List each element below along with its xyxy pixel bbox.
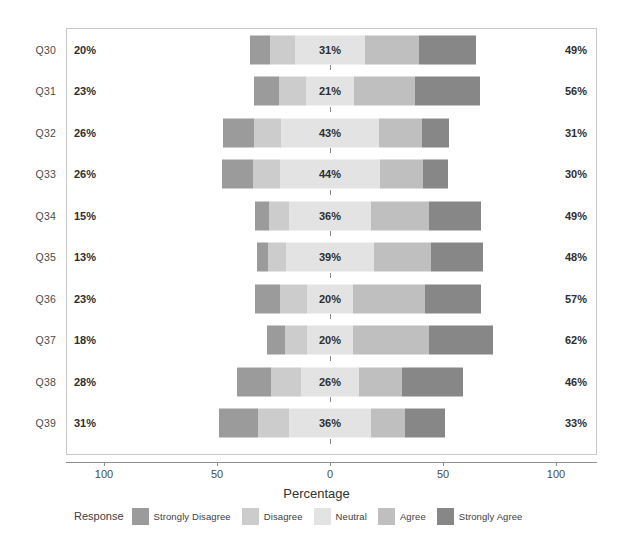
legend-item[interactable]: Strongly Agree: [437, 508, 523, 525]
zero-reference-tick: [330, 190, 331, 195]
bar-segment: [223, 118, 255, 147]
axis-tick-mark: [104, 462, 105, 466]
bar-segment: [281, 118, 378, 147]
row-category-label: Q32: [10, 127, 56, 139]
row-category-label: Q33: [10, 168, 56, 180]
bar-segment: [267, 326, 285, 355]
bar-segment: [280, 284, 307, 313]
stacked-bar: [104, 409, 556, 438]
bar-segment: [271, 367, 300, 396]
axis-tick-label: 50: [423, 468, 463, 480]
bar-segment: [353, 284, 425, 313]
zero-reference-tick: [330, 273, 331, 278]
bar-segment: [371, 201, 430, 230]
bar-segment: [359, 367, 402, 396]
bar-segment: [254, 77, 279, 106]
axis-tick-mark: [217, 462, 218, 466]
axis-tick-label: 50: [197, 468, 237, 480]
zero-reference-tick: [330, 107, 331, 112]
bar-segment: [371, 409, 405, 438]
stacked-bar: [104, 326, 556, 355]
row-category-label: Q34: [10, 210, 56, 222]
bar-segment: [354, 77, 415, 106]
bar-segment: [307, 326, 352, 355]
legend-swatch-icon: [378, 508, 395, 525]
stacked-bar: [104, 160, 556, 189]
axis-tick-label: 100: [84, 468, 124, 480]
legend-item[interactable]: Disagree: [242, 508, 303, 525]
bar-segment: [280, 160, 379, 189]
bar-segment: [429, 326, 492, 355]
axis-tick-mark: [556, 462, 557, 466]
bar-segment: [295, 35, 365, 64]
likert-diverging-bar-chart: Q3020%49%31%Q3123%56%21%Q3226%31%43%Q332…: [0, 0, 633, 555]
legend-item[interactable]: Strongly Disagree: [132, 508, 231, 525]
bar-segment: [289, 201, 370, 230]
row-category-label: Q30: [10, 44, 56, 56]
zero-reference-tick: [330, 231, 331, 236]
legend-item-label: Disagree: [264, 511, 303, 522]
bar-segment: [431, 243, 483, 272]
zero-reference-tick: [330, 314, 331, 319]
bar-segment: [307, 284, 352, 313]
zero-reference-tick: [330, 148, 331, 153]
row-category-label: Q37: [10, 334, 56, 346]
x-axis-line: [66, 462, 597, 463]
bar-segment: [258, 409, 290, 438]
zero-reference-tick: [330, 65, 331, 70]
bar-segment: [425, 284, 482, 313]
bar-segment: [405, 409, 446, 438]
legend-swatch-icon: [314, 508, 331, 525]
bar-segment: [301, 367, 360, 396]
zero-reference-tick: [330, 397, 331, 402]
bar-segment: [270, 35, 295, 64]
legend-title: Response: [74, 510, 124, 522]
legend-item-label: Agree: [400, 511, 426, 522]
bar-segment: [423, 160, 448, 189]
bar-segment: [380, 160, 423, 189]
legend-item[interactable]: Neutral: [314, 508, 367, 525]
chart-row: Q3718%62%20%: [0, 320, 633, 362]
stacked-bar: [104, 77, 556, 106]
bar-segment: [289, 409, 370, 438]
bar-segment: [255, 284, 280, 313]
stacked-bar: [104, 284, 556, 313]
bar-segment: [279, 77, 306, 106]
bar-segment: [415, 77, 481, 106]
stacked-bar: [104, 201, 556, 230]
bar-segment: [268, 243, 286, 272]
legend-item-label: Strongly Agree: [459, 511, 523, 522]
bar-segment: [269, 201, 289, 230]
bar-segment: [422, 118, 449, 147]
stacked-bar: [104, 35, 556, 64]
chart-row: Q3226%31%43%: [0, 112, 633, 154]
bar-segment: [379, 118, 422, 147]
bar-segment: [219, 409, 257, 438]
stacked-bar: [104, 118, 556, 147]
row-category-label: Q39: [10, 417, 56, 429]
bar-segment: [419, 35, 476, 64]
legend-swatch-icon: [242, 508, 259, 525]
bar-segment: [286, 243, 374, 272]
bar-segment: [222, 160, 254, 189]
bar-segment: [365, 35, 419, 64]
legend-item[interactable]: Agree: [378, 508, 426, 525]
bar-segment: [237, 367, 271, 396]
bar-segment: [374, 243, 431, 272]
legend-items: Strongly DisagreeDisagreeNeutralAgreeStr…: [132, 508, 534, 525]
chart-row: Q3123%56%21%: [0, 71, 633, 113]
legend-swatch-icon: [437, 508, 454, 525]
axis-tick-label: 100: [536, 468, 576, 480]
bar-segment: [253, 160, 280, 189]
chart-row: Q3828%46%26%: [0, 361, 633, 403]
axis-tick-label: 0: [310, 468, 350, 480]
chart-row: Q3513%48%39%: [0, 237, 633, 279]
zero-reference-tick: [330, 439, 331, 444]
legend-item-label: Neutral: [336, 511, 367, 522]
bar-segment: [306, 77, 353, 106]
bar-segment: [402, 367, 463, 396]
x-axis-title: Percentage: [0, 486, 633, 501]
row-category-label: Q31: [10, 85, 56, 97]
bar-segment: [254, 118, 281, 147]
bar-segment: [285, 326, 308, 355]
